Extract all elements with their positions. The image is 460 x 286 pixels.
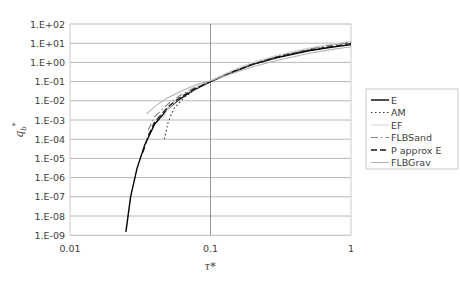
legend-label: FLBGrav — [391, 157, 431, 168]
legend-label: AM — [391, 107, 406, 118]
y-axis-ticks: 1.E+021.E+011.E+001.E-011.E-021.E-031.E-… — [30, 19, 65, 241]
x-tick-label: 0.01 — [59, 243, 80, 254]
gridlines — [70, 24, 351, 235]
series-line-p-approx-e — [143, 44, 351, 153]
data-series — [126, 41, 351, 232]
y-tick-label: 1.E+00 — [30, 57, 65, 68]
chart-canvas: 1.E+021.E+011.E+001.E-011.E-021.E-031.E-… — [0, 0, 460, 286]
series-line-flbsand — [148, 42, 351, 130]
x-axis-title: τ* — [204, 260, 216, 273]
series-line-flbgrav — [146, 47, 351, 114]
series-line-e — [126, 45, 351, 232]
y-tick-label: 1.E-03 — [34, 115, 65, 126]
x-tick-label: 1 — [348, 243, 354, 254]
y-tick-label: 1.E-06 — [34, 172, 65, 183]
y-tick-label: 1.E-01 — [34, 76, 65, 87]
y-tick-label: 1.E-09 — [34, 230, 65, 241]
y-tick-label: 1.E+01 — [30, 38, 65, 49]
y-tick-label: 1.E-07 — [34, 191, 65, 202]
series-line-ef — [162, 41, 351, 120]
legend-label: E — [391, 95, 397, 106]
x-tick-label: 0.1 — [203, 243, 218, 254]
legend-label: EF — [391, 120, 402, 131]
y-axis-title: qb* — [11, 122, 28, 138]
legend: EAMEFFLBSandP approx EFLBGrav — [366, 89, 458, 169]
y-tick-label: 1.E-04 — [34, 134, 65, 145]
y-tick-label: 1.E-02 — [34, 95, 65, 106]
legend-label: P approx E — [391, 145, 442, 156]
y-axis-title-text: qb* — [11, 122, 28, 138]
legend-label: FLBSand — [391, 132, 432, 143]
y-tick-label: 1.E-05 — [34, 153, 65, 164]
y-tick-label: 1.E+02 — [30, 19, 65, 30]
x-axis-ticks: 0.010.11 — [59, 243, 354, 254]
y-tick-label: 1.E-08 — [34, 211, 65, 222]
